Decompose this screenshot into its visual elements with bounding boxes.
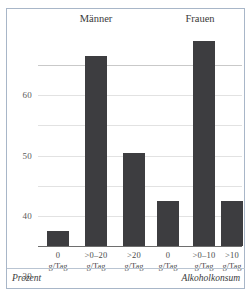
x-axis-line [38,246,242,247]
x-tick-label-value: >20 [124,250,143,261]
bar [47,231,69,246]
plot-area: 102030405060 MännerFrauen 0g/Tag>0–20g/T… [38,35,242,247]
x-tick-label-value: 0 [158,250,177,261]
footer-divider [7,268,245,269]
bar [157,201,179,246]
x-tick-label-value: 0 [48,250,67,261]
chart-figure: 102030405060 MännerFrauen 0g/Tag>0–20g/T… [0,0,252,297]
bar [85,56,107,246]
footer: Prozent Alkoholkonsum [7,268,245,290]
group-title-männer: Männer [80,13,113,24]
chart-frame: 102030405060 MännerFrauen 0g/Tag>0–20g/T… [6,8,245,289]
x-tick-label-value: >10 [222,250,241,261]
y-tick-label-60: 60 [22,90,32,100]
x-tick-label-value: >0–20 [85,250,108,261]
bar [193,41,215,246]
y-axis-unit-label: Prozent [12,273,41,283]
bar [221,201,243,246]
bar [123,153,145,246]
y-tick-label-50: 50 [22,151,32,161]
x-tick-label-value: >0–10 [193,250,216,261]
y-tick-label-40: 40 [22,211,32,221]
x-axis-title-label: Alkoholkonsum [181,273,240,283]
group-title-frauen: Frauen [185,13,214,24]
